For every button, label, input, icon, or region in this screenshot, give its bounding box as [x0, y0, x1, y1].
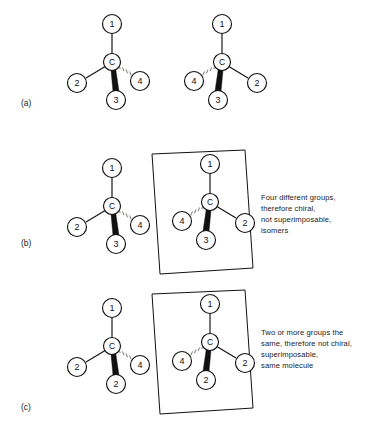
molecule-b-right: C 1 4 3 2 — [160, 148, 260, 248]
atom-center-label: C — [109, 57, 115, 67]
atom-top-label: 1 — [109, 19, 114, 29]
bond-center-right — [216, 346, 236, 358]
atom-left-label: 4 — [191, 76, 196, 86]
stereochemistry-figure: (a) C 1 2 3 — [0, 0, 376, 429]
atom-right-label: 2 — [254, 78, 259, 88]
atom-bottom-label: 3 — [203, 235, 208, 245]
atom-top-label: 1 — [109, 303, 114, 313]
atom-right-label: 4 — [137, 220, 142, 230]
caption-b: Four different groups, therefore chiral,… — [261, 192, 373, 236]
atom-right-label: 4 — [137, 360, 142, 370]
bond-center-left-hash — [203, 66, 215, 76]
atom-left-label: 4 — [179, 216, 184, 226]
atom-bottom-label: 3 — [113, 95, 118, 105]
atom-center-label: C — [207, 337, 213, 347]
atom-top-label: 1 — [109, 163, 114, 173]
atom-top-label: 1 — [219, 19, 224, 29]
atom-left-label: 2 — [74, 78, 79, 88]
bond-center-left — [86, 210, 106, 222]
atom-right-label: 2 — [242, 358, 247, 368]
panel-label-c: (c) — [21, 403, 31, 412]
bond-center-right — [216, 206, 236, 218]
atom-center-label: C — [219, 57, 225, 67]
atom-center-label: C — [207, 197, 213, 207]
bond-center-left-hash — [191, 346, 203, 356]
atom-right-label: 4 — [137, 76, 142, 86]
panel-label-b: (b) — [21, 239, 31, 248]
molecule-a-left: C 1 2 3 4 — [62, 8, 162, 108]
bond-center-left — [86, 350, 106, 362]
molecule-a-right: C 1 4 3 2 — [172, 8, 272, 108]
atom-center-label: C — [109, 201, 115, 211]
atom-bottom-label: 3 — [215, 95, 220, 105]
molecule-c-right: C 1 4 2 2 — [160, 288, 260, 388]
atom-right-label: 2 — [242, 218, 247, 228]
bond-center-left-hash — [191, 206, 203, 216]
atom-left-label: 4 — [179, 356, 184, 366]
atom-left-label: 2 — [74, 362, 79, 372]
atom-top-label: 1 — [207, 159, 212, 169]
caption-c: Two or more groups the same, therefore n… — [261, 327, 373, 371]
bond-center-right-hash — [119, 210, 131, 220]
bond-center-right — [228, 66, 248, 78]
molecule-b-left: C 1 2 3 4 — [62, 152, 162, 252]
atom-center-label: C — [109, 341, 115, 351]
atom-top-label: 1 — [207, 299, 212, 309]
bond-center-right-hash — [119, 350, 131, 360]
molecule-c-left: C 1 2 2 4 — [62, 292, 162, 392]
bond-center-right-hash — [119, 66, 131, 76]
atom-left-label: 2 — [74, 222, 79, 232]
bond-center-left — [86, 66, 106, 78]
panel-label-a: (a) — [21, 99, 31, 108]
atom-bottom-label: 2 — [203, 375, 208, 385]
atom-bottom-label: 3 — [113, 239, 118, 249]
atom-bottom-label: 2 — [113, 379, 118, 389]
